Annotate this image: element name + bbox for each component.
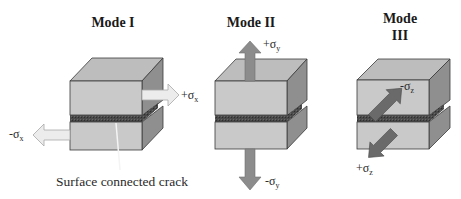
mode-3-block (357, 59, 450, 149)
mode-3-title-line2: III (392, 28, 408, 43)
fracture-modes-diagram: Mode I +σx (0, 0, 461, 199)
mode-2-crack (215, 115, 287, 122)
minus-sigma-x-label: -σx (9, 127, 23, 143)
mode-1-block (70, 58, 163, 170)
mode-2-block (215, 59, 307, 149)
mode-1-title: Mode I (91, 15, 134, 30)
minus-sigma-x-arrow-icon (33, 124, 70, 146)
mode-3-panel: Mode III -σz +σz (356, 11, 450, 177)
surface-crack-caption: Surface connected crack (56, 174, 188, 189)
mode-1-panel: Mode I +σx (9, 15, 198, 189)
plus-sigma-z-label: +σz (356, 161, 373, 177)
mode-1-crack (70, 115, 142, 122)
mode-2-panel: Mode II +σy -σy (215, 15, 307, 190)
mode-3-crack (357, 115, 429, 122)
mode-3-title-line1: Mode (383, 11, 417, 26)
plus-sigma-x-label: +σx (181, 88, 198, 104)
plus-sigma-y-label: +σy (263, 37, 280, 53)
mode-2-title: Mode II (227, 15, 276, 30)
minus-sigma-y-label: -σy (265, 174, 279, 190)
minus-sigma-y-arrow-icon (239, 149, 261, 190)
